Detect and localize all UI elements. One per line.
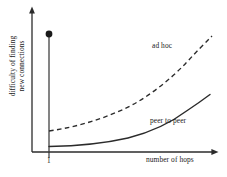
series-label-ad-hoc: ad hoc <box>152 42 172 50</box>
series-line-ad-hoc <box>49 36 212 131</box>
chart-figure: difficulty of finding new connections nu… <box>0 0 227 177</box>
origin-marker-dot <box>46 31 53 38</box>
y-axis-label: difficulty of finding new connections <box>6 14 30 118</box>
y-axis-arrowhead <box>29 7 35 14</box>
x-tick-label-1: 1 <box>47 158 51 166</box>
y-axis-label-line2: new connections <box>18 36 27 97</box>
series-label-peer-to-peer: peer to peer <box>150 117 186 125</box>
x-axis-arrowhead <box>211 149 218 155</box>
chart-plot-area <box>0 0 227 177</box>
x-axis-label: number of hops <box>146 156 194 164</box>
